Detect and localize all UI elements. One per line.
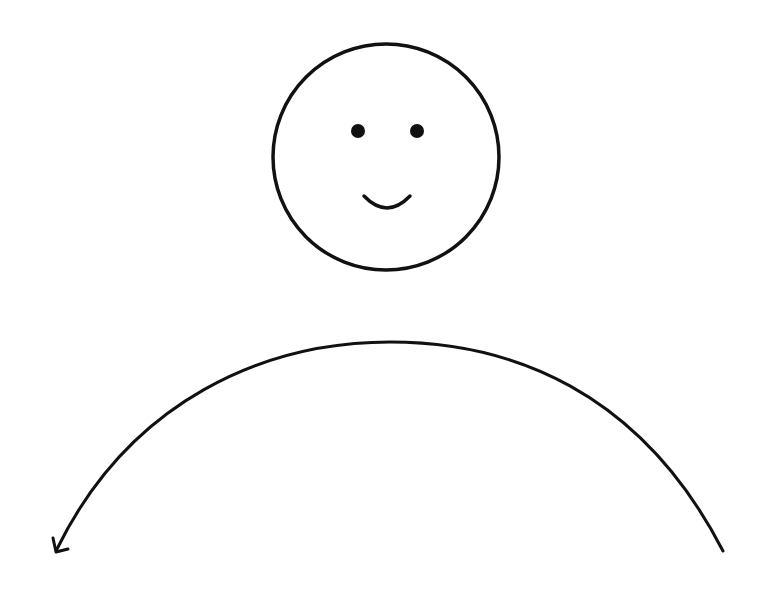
right-eye	[410, 124, 424, 138]
background	[0, 0, 774, 602]
diagram-canvas	[0, 0, 774, 602]
left-eye	[351, 124, 365, 138]
